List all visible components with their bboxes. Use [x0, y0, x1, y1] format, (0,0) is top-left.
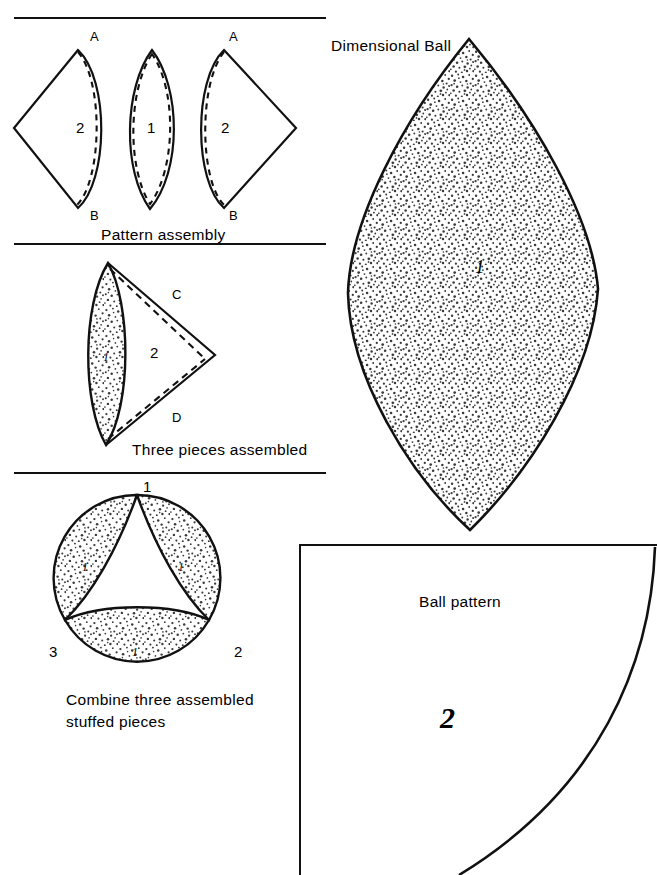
- vertex-label-a-right: A: [229, 29, 238, 45]
- dimensional-ball-figure: [330, 25, 657, 545]
- assembled-lens-label-1: 1: [103, 350, 109, 365]
- combine-petal-label-bottom-1: 1: [132, 645, 138, 660]
- piece-label-left-2: 2: [76, 119, 84, 138]
- vertex-label-b-right: B: [229, 208, 238, 224]
- dimensional-ball-outline: [348, 39, 598, 530]
- combine-petal-right: [137, 495, 220, 620]
- combine-position-label-1: 1: [143, 478, 151, 497]
- combine-position-label-3: 3: [49, 643, 57, 662]
- assembled-triangle-label-2: 2: [150, 344, 158, 363]
- dimensional-ball-svg: [330, 25, 657, 545]
- divider-rule-top: [14, 17, 326, 19]
- pattern-sheet: A A B B 2 1 2 Pattern assembly: [0, 0, 657, 875]
- pattern-assembly-svg: [0, 40, 330, 220]
- piece-label-middle-1: 1: [147, 119, 155, 138]
- caption-combine-line2: stuffed pieces: [66, 712, 166, 731]
- dimensional-ball-label-1: 1: [475, 255, 485, 279]
- three-pieces-svg: [0, 255, 330, 455]
- divider-rule-bottom: [14, 472, 326, 474]
- combine-position-label-2: 2: [234, 643, 242, 662]
- title-ball-pattern: Ball pattern: [419, 592, 501, 611]
- caption-three-pieces: Three pieces assembled: [132, 440, 307, 459]
- three-pieces-figure: [0, 255, 330, 455]
- caption-combine-line1: Combine three assembled: [66, 690, 254, 709]
- ball-pattern-label-2: 2: [440, 699, 455, 737]
- vertex-label-a-left: A: [90, 29, 99, 45]
- combine-petal-label-left-1: 1: [82, 560, 88, 575]
- piece-right-outline: [201, 50, 296, 208]
- combine-petal-left: [54, 495, 137, 620]
- combine-petal-label-right-1: 1: [178, 560, 184, 575]
- edge-label-d: D: [172, 410, 182, 426]
- caption-pattern-assembly: Pattern assembly: [101, 225, 226, 244]
- edge-label-c: C: [172, 287, 182, 303]
- piece-label-right-2: 2: [221, 119, 229, 138]
- pattern-assembly-figure: [0, 40, 330, 220]
- vertex-label-b-left: B: [90, 208, 99, 224]
